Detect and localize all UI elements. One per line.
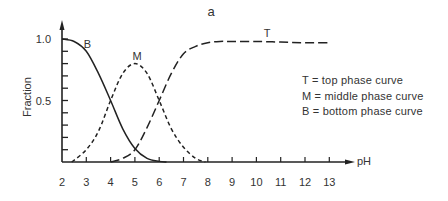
legend: T = top phase curve M = middle phase cur… [302, 73, 424, 120]
y-axis-ticks: 1.00.5 [36, 33, 68, 150]
x-tick-label: 9 [229, 176, 235, 188]
x-axis-arrow-icon [345, 160, 355, 165]
x-tick-label: 8 [205, 176, 211, 188]
x-tick-label: 13 [323, 176, 335, 188]
x-tick-label: 7 [180, 176, 186, 188]
curve-m [72, 64, 206, 162]
legend-item-top: T = top phase curve [302, 73, 424, 89]
x-tick-label: 3 [83, 176, 89, 188]
x-tick-label: 6 [156, 176, 162, 188]
legend-item-middle: M = middle phase curve [302, 89, 424, 105]
y-axis-label: Fraction [21, 77, 33, 117]
x-tick-label: 12 [299, 176, 311, 188]
x-tick-label: 11 [275, 176, 286, 188]
y-tick-label: 1.0 [36, 33, 51, 45]
x-tick-label: 4 [108, 176, 114, 188]
curve-b [62, 39, 166, 162]
curves [62, 39, 329, 162]
y-axis-arrow-icon [60, 20, 65, 30]
x-tick-label: 5 [132, 176, 138, 188]
chart-title: a [207, 4, 215, 19]
curve-label-m: M [132, 50, 141, 62]
legend-item-bottom: B = bottom phase curve [302, 104, 424, 120]
curve-label-t: T [264, 27, 271, 39]
curve-t [111, 41, 330, 162]
x-axis-label: pH [357, 155, 371, 167]
curve-label-b: B [84, 38, 91, 50]
x-tick-label: 10 [250, 176, 262, 188]
x-tick-label: 2 [59, 176, 65, 188]
curve-labels: BMT [84, 27, 271, 62]
y-tick-label: 0.5 [36, 95, 51, 107]
